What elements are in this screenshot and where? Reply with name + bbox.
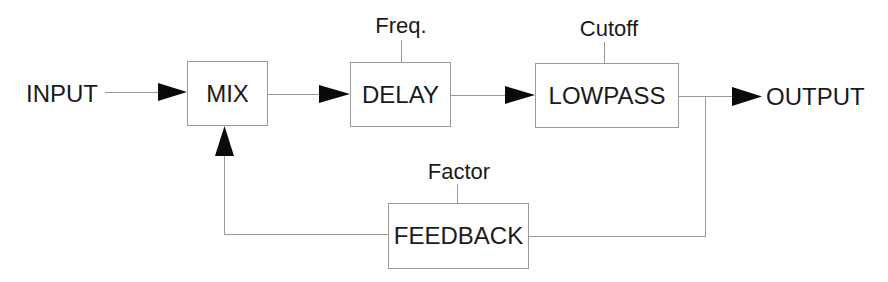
lowpass-block[interactable]: Cutoff LOWPASS (536, 16, 679, 128)
input-label: INPUT (26, 80, 98, 107)
feedback-to-mix-wire (225, 154, 389, 235)
delay-label: DELAY (362, 81, 439, 108)
mix-label: MIX (206, 80, 249, 107)
feedback-to-mix-arrow-icon (215, 126, 234, 156)
mix-block[interactable]: MIX (188, 62, 268, 126)
delay-to-lowpass-arrow-icon (505, 86, 535, 104)
feedback-param-label: Factor (428, 159, 490, 184)
feedback-label: FEEDBACK (394, 222, 523, 249)
input-to-mix-arrow-icon (158, 83, 187, 101)
delay-block[interactable]: Freq. DELAY (351, 13, 451, 127)
lowpass-label: LOWPASS (549, 82, 666, 109)
lowpass-to-output-arrow-icon (732, 87, 762, 106)
feedback-block[interactable]: Factor FEEDBACK (389, 159, 529, 269)
mix-to-delay-arrow-icon (319, 85, 350, 103)
signal-flow-diagram: INPUT MIX Freq. DELAY Cutoff LOWPASS OUT… (0, 0, 888, 282)
lowpass-param-label: Cutoff (580, 16, 639, 41)
delay-param-label: Freq. (375, 13, 426, 38)
output-label: OUTPUT (766, 83, 865, 110)
